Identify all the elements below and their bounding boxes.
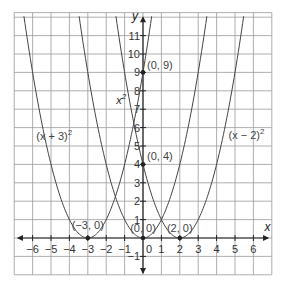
series-label: (x + 3)2 [36, 128, 72, 142]
x-axis-arrow-right-icon [263, 235, 269, 241]
point-label: (2, 0) [167, 222, 193, 234]
x-tick-label: −3 [82, 243, 95, 255]
series-label: (x − 2)2 [229, 127, 265, 141]
x-tick-label: 6 [250, 243, 256, 255]
labels: (0, 9)(0, 4)(−3, 0)(0, 0)(2, 0)x2(x + 3)… [36, 59, 265, 234]
y-tick-label: 10 [128, 48, 140, 60]
point-marker [86, 236, 91, 241]
y-tick-label: 11 [129, 30, 140, 42]
x-tick-label: −6 [26, 243, 39, 255]
y-axis-label: y [131, 9, 139, 23]
y-tick-label: 2 [134, 195, 140, 207]
x-axis-arrow-left-icon [17, 235, 23, 241]
point-label: (0, 0) [130, 222, 156, 234]
point-marker [141, 236, 146, 241]
x-tick-label: −2 [100, 243, 113, 255]
series-label: x2 [115, 92, 127, 106]
x-tick-label: −5 [45, 243, 58, 255]
point-marker [178, 236, 183, 241]
x-tick-label: 1 [158, 243, 164, 255]
point-label: (−3, 0) [72, 219, 104, 231]
parabola-chart: −6−5−4−3−2−10123456−11234567891011xy (0,… [0, 0, 284, 282]
point-marker [141, 70, 146, 75]
chart-canvas: −6−5−4−3−2−10123456−11234567891011xy (0,… [0, 0, 284, 282]
y-tick-label: 9 [134, 66, 140, 78]
x-axis-label: x [263, 220, 271, 234]
x-tick-label: 5 [232, 243, 238, 255]
point-marker [141, 162, 146, 167]
x-tick-label: −4 [63, 243, 76, 255]
y-tick-label: 4 [134, 158, 140, 170]
point-label: (0, 9) [147, 59, 173, 71]
x-tick-label: 3 [195, 243, 201, 255]
x-tick-label: 4 [214, 243, 220, 255]
y-tick-label: 3 [134, 177, 140, 189]
x-tick-label: 0 [146, 243, 152, 255]
y-tick-label: −1 [127, 250, 140, 262]
point-label: (0, 4) [147, 150, 173, 162]
y-axis-arrow-down-icon [140, 268, 146, 274]
x-tick-label: 2 [177, 243, 183, 255]
